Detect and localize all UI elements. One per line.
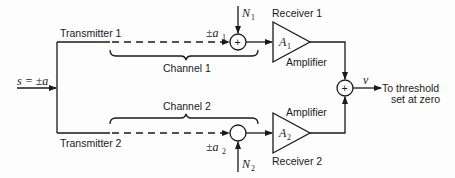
combiner: + v To threshold set at zero [337,73,440,105]
svg-text:+: + [342,82,348,94]
svg-text:2: 2 [287,133,291,142]
svg-text:1: 1 [222,33,226,42]
channel-2-brace [110,114,258,124]
transmitter-2-label: Transmitter 2 [60,137,122,149]
signal-1-label: ±a [206,26,219,40]
input-signal: s = ±a [17,42,57,133]
svg-text:2: 2 [251,164,255,173]
branch-2: Transmitter 2 Channel 2 ±a 2 N 2 A 2 Amp… [57,97,345,173]
noise-1-label: N [241,6,251,20]
gain-2-label: A [278,126,287,140]
gain-1-label: A [278,35,287,49]
svg-text:1: 1 [251,13,255,22]
signal-2-label: ±a [206,140,219,154]
input-label: s = ±a [17,74,48,88]
amplifier-1-label: Amplifier [286,56,327,68]
svg-text:+: + [235,36,241,48]
svg-text:1: 1 [287,42,291,51]
output-variable: v [363,73,369,87]
summing-junction-2-icon [230,125,246,141]
receiver-2-label: Receiver 2 [272,155,322,167]
channel-2-label: Channel 2 [163,100,211,112]
diversity-receiver-diagram: s = ±a Transmitter 1 Channel 1 ±a 1 N 1 … [0,0,455,178]
receiver-1-label: Receiver 1 [272,7,322,19]
transmitter-1-label: Transmitter 1 [60,27,122,39]
channel-1-label: Channel 1 [163,62,211,74]
svg-text:2: 2 [222,147,226,156]
noise-2-label: N [241,157,251,171]
output-label-line2: set at zero [391,93,440,105]
branch-1: Transmitter 1 Channel 1 ±a 1 N 1 + A 1 R… [57,6,345,79]
channel-1-brace [110,50,258,60]
amplifier-2-label: Amplifier [286,106,327,118]
